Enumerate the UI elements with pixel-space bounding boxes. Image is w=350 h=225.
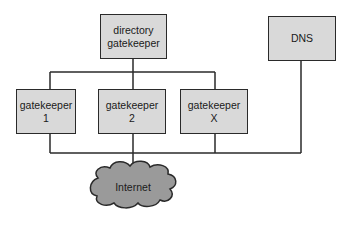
gatekeeper-x-node: gatekeeper X (180, 89, 248, 134)
directory-gatekeeper-node: directory gatekeeper (100, 14, 167, 59)
node-label: DNS (291, 32, 313, 45)
node-label: gatekeeper (188, 99, 241, 112)
node-label: gatekeeper (106, 99, 159, 112)
internet-label: Internet (90, 181, 176, 193)
node-label: 2 (129, 112, 135, 125)
node-label: directory (113, 24, 153, 37)
node-label: gatekeeper (107, 37, 160, 50)
node-label: 1 (43, 112, 49, 125)
dns-node: DNS (268, 16, 336, 61)
gatekeeper-2-node: gatekeeper 2 (98, 89, 166, 134)
diagram-canvas: directory gatekeeper DNS gatekeeper 1 ga… (0, 0, 350, 225)
node-label: X (210, 112, 217, 125)
node-label: gatekeeper (20, 99, 73, 112)
gatekeeper-1-node: gatekeeper 1 (16, 89, 76, 134)
